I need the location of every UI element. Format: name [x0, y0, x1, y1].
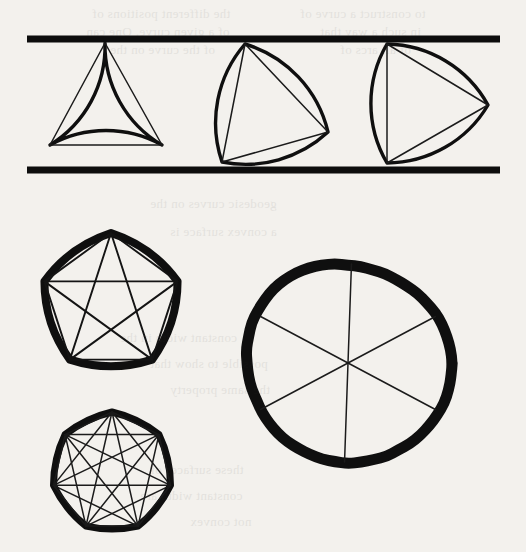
reuleaux-heptagon-edge — [112, 412, 159, 435]
reuleaux-triangle-3-chord — [387, 105, 488, 163]
reuleaux-triangle-3-outline — [371, 44, 488, 163]
reuleaux-heptagon-edge — [65, 412, 112, 435]
reuleaux-pentagon-edge — [44, 233, 111, 281]
reuleaux-heptagon-outline — [54, 412, 171, 529]
circle-group — [246, 264, 452, 463]
reuleaux-triangle-3 — [371, 44, 488, 163]
figure-container: the different positions ofto construct a… — [0, 0, 526, 552]
reuleaux-triangle-1-outline — [50, 43, 162, 145]
reuleaux-triangle-3-chord — [387, 44, 488, 105]
reuleaux-triangle-2-chord — [245, 44, 328, 132]
reuleaux-triangles-group — [50, 43, 488, 164]
reuleaux-heptagon-diagonal — [65, 435, 170, 486]
reuleaux-triangle-2-chord — [222, 132, 328, 162]
reuleaux-heptagon-diagonal — [54, 435, 159, 486]
reuleaux-triangle-2-outline — [216, 44, 328, 164]
reuleaux-pentagon-group — [44, 233, 177, 366]
reuleaux-pentagon-outline — [44, 233, 177, 366]
reuleaux-triangle-1 — [50, 43, 162, 145]
reuleaux-pentagon-edge — [111, 233, 178, 281]
constant-width-curves-figure — [0, 0, 526, 552]
reuleaux-heptagon-group — [54, 412, 171, 529]
reuleaux-triangle-2 — [216, 44, 328, 164]
